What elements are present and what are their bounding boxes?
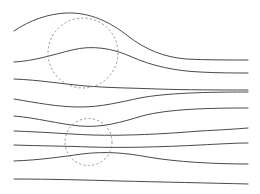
streamline-figure xyxy=(0,0,260,194)
figure-background xyxy=(0,0,260,194)
flow-field-canvas xyxy=(0,0,260,194)
